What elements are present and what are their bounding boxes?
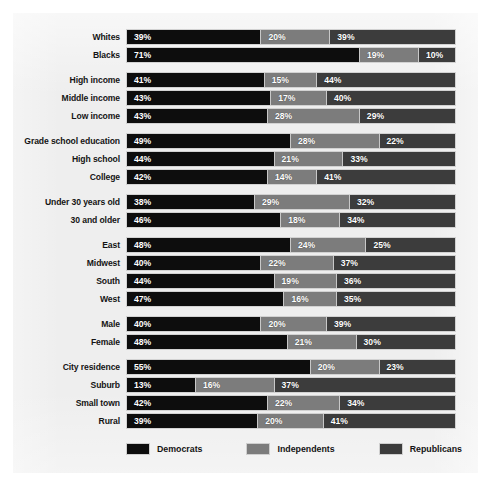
stacked-bar: 48%21%30% (126, 334, 456, 350)
legend-item: Republicans (379, 443, 462, 455)
segment-value-label: 15% (265, 75, 289, 85)
segment-value-label: 41% (317, 172, 341, 182)
segment-value-label: 24% (291, 240, 315, 250)
segment-value-label: 39% (127, 416, 151, 426)
chart-row: Under 30 years old38%29%32% (23, 194, 456, 210)
bar-segment-democrats: 41% (127, 73, 265, 87)
row-category-label: Under 30 years old (23, 194, 126, 210)
chart-row: Suburb13%16%37% (23, 377, 456, 393)
stacked-bar: 39%20%39% (126, 29, 456, 45)
bar-segment-democrats: 40% (127, 256, 261, 270)
chart-groups: Whites39%20%39%Blacks71%19%10%High incom… (23, 29, 456, 429)
chart-row: Male40%20%39% (23, 316, 456, 332)
legend-label: Independents (277, 444, 334, 454)
legend-label: Republicans (410, 444, 462, 454)
bar-segment-republicans: 39% (330, 30, 455, 44)
segment-value-label: 42% (127, 172, 151, 182)
bar-segment-democrats: 43% (127, 91, 271, 105)
bar-segment-independents: 28% (291, 134, 380, 148)
segment-value-label: 47% (127, 294, 151, 304)
row-category-label: College (23, 169, 126, 185)
bar-segment-independents: 19% (360, 48, 419, 62)
stacked-bar: 71%19%10% (126, 47, 456, 63)
segment-value-label: 16% (196, 380, 220, 390)
segment-value-label: 40% (127, 258, 151, 268)
bar-segment-republicans: 23% (380, 360, 455, 374)
segment-value-label: 39% (127, 32, 151, 42)
segment-value-label: 20% (261, 319, 285, 329)
segment-value-label: 16% (284, 294, 308, 304)
chart-row: Rural39%20%41% (23, 413, 456, 429)
bar-segment-independents: 29% (255, 195, 350, 209)
segment-value-label: 39% (327, 319, 351, 329)
segment-value-label: 21% (288, 337, 312, 347)
row-category-label: High school (23, 151, 126, 167)
bar-segment-independents: 18% (281, 213, 340, 227)
segment-value-label: 33% (343, 154, 367, 164)
chart-row: Blacks71%19%10% (23, 47, 456, 63)
chart-row: East48%24%25% (23, 237, 456, 253)
chart-group: City residence55%20%23%Suburb13%16%37%Sm… (23, 359, 456, 429)
segment-value-label: 40% (127, 319, 151, 329)
legend-item: Democrats (126, 443, 202, 455)
row-category-label: High income (23, 72, 126, 88)
stacked-bar: 55%20%23% (126, 359, 456, 375)
segment-value-label: 20% (311, 362, 335, 372)
segment-value-label: 35% (337, 294, 361, 304)
stacked-bar: 42%14%41% (126, 169, 456, 185)
chart-row: Middle income43%17%40% (23, 90, 456, 106)
bar-segment-independents: 17% (271, 91, 327, 105)
bar-segment-democrats: 39% (127, 414, 258, 428)
bar-segment-republicans: 37% (334, 256, 455, 270)
stacked-bar: 48%24%25% (126, 237, 456, 253)
bar-segment-democrats: 43% (127, 109, 268, 123)
bar-segment-republicans: 25% (366, 238, 455, 252)
segment-value-label: 17% (271, 93, 295, 103)
segment-value-label: 22% (380, 136, 404, 146)
bar-segment-independents: 21% (288, 335, 357, 349)
segment-value-label: 19% (360, 50, 384, 60)
legend-item: Independents (246, 443, 334, 455)
bar-segment-independents: 15% (265, 73, 317, 87)
bar-segment-democrats: 38% (127, 195, 255, 209)
row-category-label: Whites (23, 29, 126, 45)
segment-value-label: 29% (360, 111, 384, 121)
chart-group: Under 30 years old38%29%32%30 and older4… (23, 194, 456, 228)
chart-row: City residence55%20%23% (23, 359, 456, 375)
bar-segment-democrats: 71% (127, 48, 360, 62)
bar-segment-independents: 20% (261, 317, 327, 331)
segment-value-label: 42% (127, 398, 151, 408)
segment-value-label: 14% (268, 172, 292, 182)
row-category-label: Midwest (23, 255, 126, 271)
bar-segment-democrats: 44% (127, 274, 275, 288)
stacked-bar: 40%22%37% (126, 255, 456, 271)
segment-value-label: 34% (340, 398, 364, 408)
bar-segment-democrats: 48% (127, 335, 288, 349)
chart-group: Male40%20%39%Female48%21%30% (23, 316, 456, 350)
chart-row: Whites39%20%39% (23, 29, 456, 45)
row-category-label: Blacks (23, 47, 126, 63)
stacked-bar: 38%29%32% (126, 194, 456, 210)
segment-value-label: 48% (127, 240, 151, 250)
row-category-label: West (23, 291, 126, 307)
segment-value-label: 37% (275, 380, 299, 390)
bar-segment-republicans: 30% (357, 335, 455, 349)
stacked-bar: 43%17%40% (126, 90, 456, 106)
bar-segment-democrats: 46% (127, 213, 281, 227)
segment-value-label: 22% (268, 398, 292, 408)
chart-panel: Whites39%20%39%Blacks71%19%10%High incom… (13, 13, 478, 473)
chart-row: Female48%21%30% (23, 334, 456, 350)
stacked-bar: 13%16%37% (126, 377, 456, 393)
row-category-label: South (23, 273, 126, 289)
chart-row: High school44%21%33% (23, 151, 456, 167)
stacked-bar: 41%15%44% (126, 72, 456, 88)
segment-value-label: 44% (127, 276, 151, 286)
stacked-bar: 49%28%22% (126, 133, 456, 149)
row-category-label: Small town (23, 395, 126, 411)
bar-segment-democrats: 48% (127, 238, 291, 252)
chart-group: High income41%15%44%Middle income43%17%4… (23, 72, 456, 124)
row-category-label: 30 and older (23, 212, 126, 228)
chart-row: Midwest40%22%37% (23, 255, 456, 271)
legend-swatch-icon (379, 443, 403, 455)
stacked-bar: 44%21%33% (126, 151, 456, 167)
